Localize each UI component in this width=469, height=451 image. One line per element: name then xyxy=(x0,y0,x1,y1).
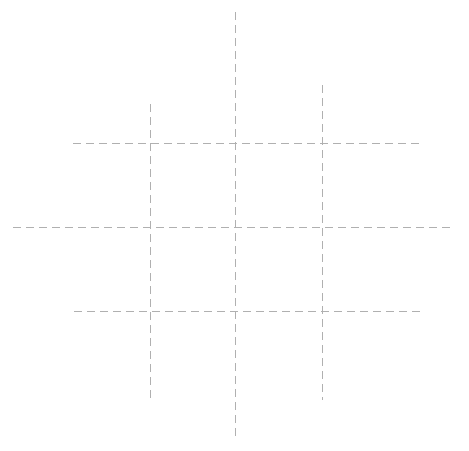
canvas-background xyxy=(0,0,469,451)
drawing-canvas xyxy=(0,0,469,451)
dashed-grid-svg xyxy=(0,0,469,451)
